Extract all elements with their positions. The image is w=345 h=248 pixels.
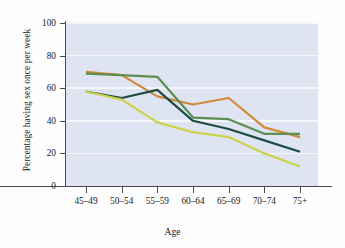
y-axis-line bbox=[65, 21, 66, 187]
y-tick-label: 100 bbox=[30, 18, 56, 28]
x-tick-mark bbox=[86, 187, 87, 193]
y-tick-label: 80 bbox=[30, 51, 56, 61]
x-tick-mark bbox=[229, 187, 230, 193]
y-tick-label: 60 bbox=[30, 83, 56, 93]
series-lines bbox=[66, 23, 318, 186]
y-tick-mark bbox=[60, 23, 65, 24]
x-tick-label: 75+ bbox=[278, 196, 322, 206]
x-tick-mark bbox=[157, 187, 158, 193]
x-tick-mark bbox=[264, 187, 265, 193]
y-tick-mark bbox=[60, 121, 65, 122]
y-tick-mark bbox=[60, 88, 65, 89]
x-tick-mark bbox=[300, 187, 301, 193]
x-tick-mark bbox=[193, 187, 194, 193]
y-tick-mark bbox=[60, 186, 65, 187]
y-tick-mark bbox=[60, 153, 65, 154]
x-tick-mark bbox=[122, 187, 123, 193]
y-tick-mark bbox=[60, 56, 65, 57]
y-axis-title: Percentage having sex once per week bbox=[22, 15, 32, 185]
y-tick-label: 0 bbox=[30, 181, 56, 191]
y-tick-label: 40 bbox=[30, 116, 56, 126]
x-axis-title: Age bbox=[0, 227, 345, 237]
y-tick-label: 20 bbox=[30, 148, 56, 158]
plot-area bbox=[66, 23, 318, 186]
line-series-orange bbox=[86, 72, 300, 137]
chart-figure: Percentage having sex once per week 0204… bbox=[0, 0, 345, 248]
